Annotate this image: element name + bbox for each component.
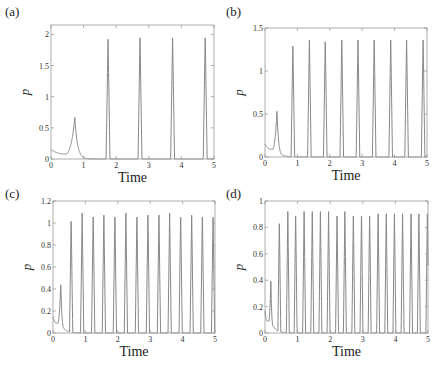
y-tick-label: 0.4 (253, 276, 263, 285)
x-tick-label: 1 (295, 159, 299, 168)
x-tick-label: 3 (360, 159, 364, 168)
x-tick-label: 1 (82, 161, 86, 170)
x-tick-label: 3 (147, 161, 151, 170)
x-tick-label: 4 (393, 335, 397, 344)
x-tick-label: 2 (328, 159, 332, 168)
x-tick-label: 0 (263, 159, 267, 168)
y-tick-label: 0.2 (41, 307, 51, 316)
y-tick-label: 0 (47, 329, 51, 338)
x-tick-label: 5 (425, 159, 429, 168)
y-axis-label: p (231, 89, 246, 97)
y-tick-label: 0.8 (41, 241, 51, 250)
x-tick-label: 5 (426, 335, 430, 344)
x-axis-label: Time (118, 170, 147, 183)
y-tick-label: 0 (45, 155, 49, 164)
data-series-p (265, 212, 428, 333)
x-axis-label: Time (332, 344, 361, 359)
y-tick-label: 1.2 (41, 197, 51, 206)
y-axis-label: p (231, 263, 246, 271)
x-tick-label: 2 (116, 335, 120, 344)
x-tick-label: 4 (393, 159, 397, 168)
chart-panel-d: 01234500.20.40.60.81Timep (221, 183, 442, 367)
axes-box (265, 28, 427, 157)
x-tick-label: 0 (51, 335, 55, 344)
y-tick-label: 1.5 (39, 62, 49, 71)
x-tick-label: 5 (213, 335, 217, 344)
y-tick-label: 1 (45, 93, 49, 102)
y-tick-label: 0 (259, 153, 263, 162)
y-tick-label: 0 (259, 329, 263, 338)
chart-panel-c: 01234500.20.40.60.811.2Timep (0, 183, 221, 367)
x-tick-label: 2 (114, 161, 118, 170)
x-tick-label: 4 (181, 335, 185, 344)
x-tick-label: 1 (83, 335, 87, 344)
data-series-p (51, 38, 214, 159)
y-tick-label: 0.4 (41, 285, 51, 294)
chart-panel-a: 01234500.511.52Timep (0, 0, 221, 183)
x-tick-label: 0 (49, 161, 53, 170)
y-tick-label: 1 (259, 197, 263, 206)
x-axis-label: Time (331, 168, 360, 183)
y-tick-label: 2 (45, 30, 49, 39)
y-tick-label: 0.5 (39, 124, 49, 133)
x-tick-label: 3 (361, 335, 365, 344)
chart-panel-b: 01234500.511.5Timep (221, 0, 442, 183)
data-series-p (265, 40, 427, 157)
x-tick-label: 1 (296, 335, 300, 344)
x-tick-label: 2 (328, 335, 332, 344)
x-tick-label: 0 (263, 335, 267, 344)
x-tick-label: 3 (148, 335, 152, 344)
y-tick-label: 1 (47, 219, 51, 228)
y-tick-label: 1 (259, 67, 263, 76)
data-series-p (53, 213, 215, 333)
x-tick-label: 5 (212, 161, 216, 170)
x-tick-label: 4 (179, 161, 183, 170)
y-axis-label: p (17, 88, 32, 96)
axes-box (51, 25, 214, 159)
y-tick-label: 0.8 (253, 223, 263, 232)
y-tick-label: 0.2 (253, 303, 263, 312)
y-axis-label: p (19, 263, 34, 271)
y-tick-label: 0.6 (41, 263, 51, 272)
y-tick-label: 0.5 (253, 110, 263, 119)
y-tick-label: 0.6 (253, 250, 263, 259)
y-tick-label: 1.5 (253, 24, 263, 33)
x-axis-label: Time (119, 344, 148, 359)
